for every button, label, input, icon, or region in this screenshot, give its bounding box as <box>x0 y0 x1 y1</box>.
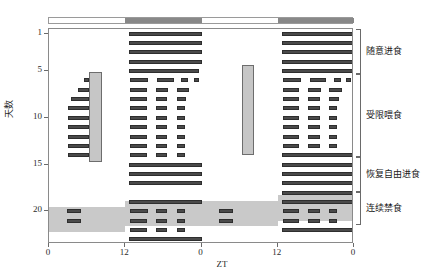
activity-bout <box>130 144 147 148</box>
activity-bout <box>282 181 353 185</box>
activity-bout <box>310 78 327 82</box>
activity-bout <box>156 125 167 129</box>
activity-bout <box>329 88 342 92</box>
activity-bout <box>282 228 353 232</box>
activity-bout <box>329 135 337 139</box>
activity-bout <box>177 219 185 223</box>
y-axis-tick <box>44 117 48 118</box>
x-axis-tick-label: 12 <box>114 248 134 257</box>
activity-bout <box>129 60 201 64</box>
activity-bout <box>130 78 148 82</box>
activity-bout <box>334 78 341 82</box>
y-axis-tick <box>44 164 48 165</box>
food-access-window-2 <box>242 65 255 156</box>
activity-bout <box>156 88 169 92</box>
activity-bout <box>308 125 319 129</box>
x-axis-tick-label: 0 <box>38 248 58 257</box>
activity-bout <box>129 172 201 176</box>
activity-bout <box>130 106 147 110</box>
y-axis-tick <box>44 70 48 71</box>
activity-bout <box>282 172 353 176</box>
activity-bout <box>283 209 300 213</box>
activity-bout <box>68 125 89 129</box>
activity-bout <box>68 135 89 139</box>
activity-bout <box>156 153 167 157</box>
activity-bout <box>68 106 89 110</box>
phase-bracket-refeed <box>356 157 361 192</box>
activity-bout <box>129 41 201 45</box>
activity-bout <box>329 144 337 148</box>
activity-bout <box>177 153 185 157</box>
activity-bout <box>329 106 337 110</box>
activity-bout <box>78 88 89 92</box>
activity-bout <box>282 32 353 36</box>
light-phase-day1 <box>49 18 125 23</box>
activity-bout <box>283 144 300 148</box>
activity-bout <box>283 106 300 110</box>
phase-label-refeed: 恢复自由进食 <box>366 169 420 179</box>
activity-bout <box>177 106 185 110</box>
activity-bout <box>129 163 201 167</box>
activity-bout <box>130 219 147 223</box>
phase-bracket-restricted <box>356 74 361 157</box>
activity-bout <box>329 116 337 120</box>
activity-bout <box>308 144 319 148</box>
dark-phase-day2 <box>278 18 354 23</box>
activity-bout <box>283 135 300 139</box>
activity-bout <box>156 209 167 213</box>
activity-bout <box>177 209 185 213</box>
activity-bout <box>156 97 167 101</box>
activity-bout <box>194 78 199 82</box>
activity-bout <box>308 219 319 223</box>
activity-bout <box>308 106 319 110</box>
y-axis-tick-label: 5 <box>0 65 42 74</box>
activity-bout <box>308 135 319 139</box>
activity-bout <box>129 237 201 241</box>
y-axis-tick <box>44 210 48 211</box>
activity-bout <box>329 125 337 129</box>
activity-bout <box>156 219 167 223</box>
activity-bout <box>282 191 353 195</box>
phase-bracket-adlib <box>356 29 361 74</box>
fasting-band-segment-2 <box>125 201 278 226</box>
activity-bout <box>177 97 187 101</box>
activity-bout <box>346 78 351 82</box>
activity-bout <box>129 50 201 54</box>
activity-bout <box>177 144 185 148</box>
activity-bout <box>329 219 337 223</box>
phase-label-fasting: 连续禁食 <box>366 203 402 213</box>
activity-bout <box>130 88 147 92</box>
activity-bout <box>130 135 147 139</box>
activity-bout <box>71 97 89 101</box>
activity-bout <box>219 219 233 223</box>
activity-bout <box>282 163 353 167</box>
activity-bout <box>282 69 353 73</box>
activity-bout <box>130 209 148 213</box>
x-axis-title: ZT <box>0 259 444 269</box>
phase-bracket-fasting <box>356 192 361 226</box>
activity-bout <box>283 116 300 120</box>
activity-bout <box>130 116 147 120</box>
activity-bout <box>156 135 167 139</box>
activity-bout <box>329 97 339 101</box>
activity-bout <box>156 116 167 120</box>
x-axis-tick-label: 12 <box>267 248 287 257</box>
activity-bout <box>129 181 201 185</box>
x-axis-tick-label: 0 <box>343 248 363 257</box>
y-axis-tick <box>44 33 48 34</box>
activity-bout <box>130 228 147 232</box>
activity-bout <box>283 219 300 223</box>
actogram-plot-area <box>48 28 353 243</box>
x-axis-tick-label: 0 <box>191 248 211 257</box>
activity-bout <box>219 209 233 213</box>
activity-bout <box>130 97 147 101</box>
activity-bout <box>283 78 301 82</box>
food-access-window-1 <box>89 72 102 162</box>
activity-bout <box>67 209 81 213</box>
phase-label-restricted: 受限喂食 <box>366 110 402 120</box>
light-phase-day2 <box>202 18 278 23</box>
activity-bout <box>130 153 147 157</box>
activity-bout <box>308 88 321 92</box>
activity-bout <box>156 106 167 110</box>
activity-bout <box>68 116 89 120</box>
